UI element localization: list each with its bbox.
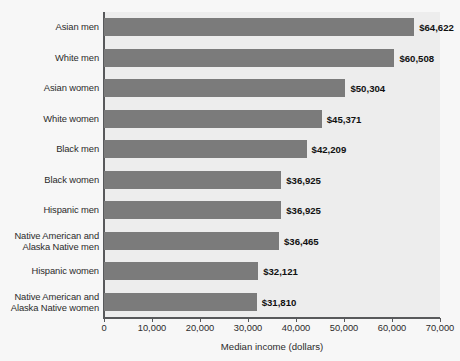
bar-value-label: $64,622 (419, 22, 454, 33)
category-label-line: Hispanic women (0, 266, 99, 277)
x-axis-tick (392, 318, 393, 322)
bar-row: Asian men$64,622 (0, 12, 460, 43)
bar-value-label: $45,371 (327, 113, 362, 124)
category-label-line: Black women (0, 174, 99, 185)
x-axis-tick-label: 0 (101, 323, 106, 333)
x-axis-tick (248, 318, 249, 322)
x-axis-tick (200, 318, 201, 322)
category-label-line: Native American and (0, 291, 99, 302)
category-label: Hispanic women (0, 266, 99, 277)
category-label: Black women (0, 174, 99, 185)
category-label-line: Asian women (0, 83, 99, 94)
bar (104, 49, 394, 67)
bar-value-label: $32,121 (263, 266, 298, 277)
x-axis-tick-label: 10,000 (138, 323, 166, 333)
bar-value-label: $36,925 (286, 205, 321, 216)
bar-row: Black men$42,209 (0, 134, 460, 165)
category-label-line: Black men (0, 144, 99, 155)
bar-row: Native American andAlaska Native women$3… (0, 287, 460, 318)
bar-row: White men$60,508 (0, 43, 460, 74)
x-axis-line (103, 317, 440, 319)
median-income-bar-chart: Asian men$64,622White men$60,508Asian wo… (0, 0, 460, 361)
category-label-line: Alaska Native women (0, 302, 99, 313)
bar (104, 79, 345, 97)
category-label: Black men (0, 144, 99, 155)
x-axis-tick (344, 318, 345, 322)
bar-row: Native American andAlaska Native men$36,… (0, 226, 460, 257)
bar-row: Hispanic men$36,925 (0, 195, 460, 226)
x-axis-tick-label: 60,000 (378, 323, 406, 333)
bar-row: Asian women$50,304 (0, 73, 460, 104)
bar-value-label: $50,304 (350, 83, 385, 94)
bar-value-label: $36,925 (286, 174, 321, 185)
category-label-line: Hispanic men (0, 205, 99, 216)
category-label-line: White women (0, 113, 99, 124)
bar (104, 171, 281, 189)
bar (104, 110, 322, 128)
category-label-line: White men (0, 52, 99, 63)
category-label: Native American andAlaska Native women (0, 291, 99, 313)
category-label: White women (0, 113, 99, 124)
x-axis-tick-label: 20,000 (186, 323, 214, 333)
category-label: White men (0, 52, 99, 63)
bar-row: Black women$36,925 (0, 165, 460, 196)
bar-row: White women$45,371 (0, 104, 460, 135)
bar-value-label: $31,810 (262, 296, 297, 307)
x-axis-tick (440, 318, 441, 322)
x-axis-tick-label: 40,000 (282, 323, 310, 333)
category-label: Asian men (0, 22, 99, 33)
category-label-line: Alaska Native men (0, 241, 99, 252)
bar (104, 262, 258, 280)
bar-value-label: $36,465 (284, 235, 319, 246)
bar (104, 18, 414, 36)
bar (104, 293, 257, 311)
x-axis-tick-label: 70,000 (426, 323, 454, 333)
category-label: Native American andAlaska Native men (0, 230, 99, 252)
bar-row: Hispanic women$32,121 (0, 256, 460, 287)
bar-value-label: $60,508 (399, 52, 434, 63)
x-axis-tick (296, 318, 297, 322)
bar (104, 140, 307, 158)
x-axis-title: Median income (dollars) (104, 341, 440, 352)
category-label: Asian women (0, 83, 99, 94)
x-axis-tick (104, 318, 105, 322)
bar (104, 232, 279, 250)
category-label-line: Native American and (0, 230, 99, 241)
x-axis-tick-label: 50,000 (330, 323, 358, 333)
x-axis-tick-label: 30,000 (234, 323, 262, 333)
category-label: Hispanic men (0, 205, 99, 216)
category-label-line: Asian men (0, 22, 99, 33)
x-axis-tick (152, 318, 153, 322)
bar-value-label: $42,209 (312, 144, 347, 155)
bar (104, 201, 281, 219)
